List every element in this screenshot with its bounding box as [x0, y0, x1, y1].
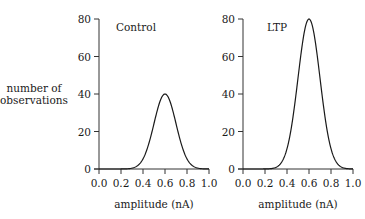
control-panel: Control 0204060800.00.20.40.60.81.0 ampl… [78, 13, 218, 210]
figure: number of observations Control 020406080… [0, 0, 365, 219]
x-axis-title: amplitude (nA) [258, 198, 337, 210]
y-tick-label: 80 [78, 13, 91, 25]
x-tick-label: 0.2 [113, 177, 130, 189]
x-tick-label: 0.4 [135, 177, 152, 189]
y-tick-label: 40 [222, 88, 235, 100]
axes: 0204060800.00.20.40.60.81.0 [78, 13, 218, 189]
x-tick-label: 0.6 [301, 177, 318, 189]
distribution-curve [99, 94, 209, 169]
panel-title: LTP [267, 21, 287, 33]
x-tick-label: 0.8 [323, 177, 340, 189]
y-tick-label: 60 [78, 51, 91, 63]
y-axis-title-line2: observations [0, 94, 68, 106]
x-tick-label: 0.0 [235, 177, 252, 189]
x-tick-label: 1.0 [201, 177, 218, 189]
panel-title: Control [116, 21, 157, 33]
ltp-panel: LTP 0204060800.00.20.40.60.81.0 amplitud… [222, 13, 362, 210]
y-tick-label: 20 [78, 126, 91, 138]
x-tick-label: 0.6 [157, 177, 174, 189]
y-tick-label: 20 [222, 126, 235, 138]
x-tick-label: 0.0 [91, 177, 108, 189]
x-axis-title: amplitude (nA) [114, 198, 193, 210]
y-tick-label: 0 [228, 163, 235, 175]
axes: 0204060800.00.20.40.60.81.0 [222, 13, 362, 189]
x-tick-label: 1.0 [345, 177, 362, 189]
y-tick-label: 60 [222, 51, 235, 63]
y-tick-label: 40 [78, 88, 91, 100]
distribution-curve [243, 19, 353, 169]
y-axis-title-line1: number of [7, 82, 63, 94]
x-tick-label: 0.2 [257, 177, 274, 189]
y-tick-label: 0 [84, 163, 91, 175]
y-tick-label: 80 [222, 13, 235, 25]
x-tick-label: 0.4 [279, 177, 296, 189]
x-tick-label: 0.8 [179, 177, 196, 189]
